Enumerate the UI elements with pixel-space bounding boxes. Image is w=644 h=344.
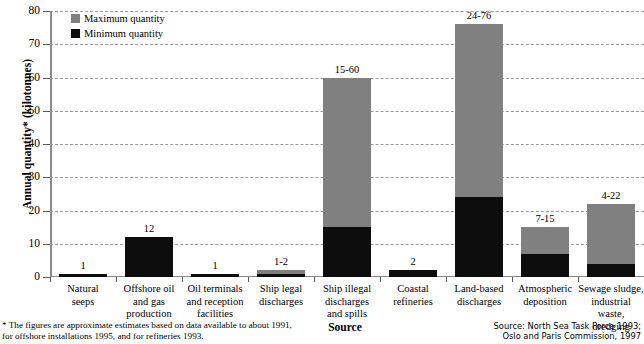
category-label-line: Ship illegal [314, 283, 380, 296]
bar-3[interactable] [257, 270, 305, 277]
y-axis-tick [43, 44, 50, 45]
bar-value-label: 2 [368, 256, 458, 267]
bar-7[interactable] [521, 227, 569, 277]
y-axis-tick [43, 277, 50, 278]
category-label-line: refineries [380, 296, 446, 309]
legend-item-minimum: Minimum quantity [71, 27, 165, 40]
plot-area: 0102030405060708011211-215-60224-767-154… [50, 11, 644, 277]
bar-value-label: 7-15 [500, 213, 590, 224]
category-label-line: discharges [446, 296, 512, 309]
bar-5[interactable] [389, 270, 437, 277]
legend: Maximum quantity Minimum quantity [71, 12, 165, 42]
x-axis-category-label: Atmosphericdeposition [512, 283, 578, 308]
bar-2[interactable] [191, 274, 239, 277]
category-label-line: Sewage sludge, [578, 283, 644, 296]
bar-value-label: 24-76 [434, 10, 524, 21]
category-label-line: Coastal [380, 283, 446, 296]
footnote-line-2: for offshore installations 1995, and for… [2, 331, 332, 342]
legend-label-maximum: Maximum quantity [84, 13, 165, 24]
bar-value-label: 1 [38, 260, 128, 271]
bar-0[interactable] [59, 274, 107, 277]
bar-segment-maximum [455, 24, 503, 197]
bar-segment-maximum [323, 78, 371, 228]
bar-8[interactable] [587, 204, 635, 277]
category-label-line: and gas [116, 296, 182, 309]
footnote-line-1: * The figures are approximate estimates … [2, 320, 332, 331]
x-axis-tick [248, 277, 249, 282]
bar-value-label: 15-60 [302, 64, 392, 75]
bar-segment-minimum [455, 197, 503, 277]
bar-segment-maximum [521, 227, 569, 254]
bar-segment-maximum [587, 204, 635, 264]
category-label-line: Oil terminals [182, 283, 248, 296]
x-axis-title: Source [285, 321, 405, 333]
y-axis-tick [43, 144, 50, 145]
category-label-line: and spills [314, 308, 380, 321]
x-axis-category-label: Naturalseeps [50, 283, 116, 308]
category-label-line: Offshore oil [116, 283, 182, 296]
y-axis-tick [43, 111, 50, 112]
x-axis-tick [512, 277, 513, 282]
category-label-line: deposition [512, 296, 578, 309]
category-label-line: and reception [182, 296, 248, 309]
x-axis-tick [50, 277, 51, 282]
category-label-line: dredging [578, 321, 644, 334]
category-label-line: Natural [50, 283, 116, 296]
category-label-line: Ship legal [248, 283, 314, 296]
bar-4[interactable] [323, 78, 371, 278]
x-axis-tick [380, 277, 381, 282]
x-axis-tick [116, 277, 117, 282]
x-axis-tick [578, 277, 579, 282]
category-label-line: facilities [182, 308, 248, 321]
x-axis-tick [446, 277, 447, 282]
footnote: * The figures are approximate estimates … [2, 320, 332, 341]
y-axis-tick-label: 20 [8, 205, 40, 217]
category-label-line: discharges [314, 296, 380, 309]
bar-segment-minimum [323, 227, 371, 277]
x-axis-tick [182, 277, 183, 282]
x-axis-category-label: Land-baseddischarges [446, 283, 512, 308]
y-axis-tick-label: 40 [8, 138, 40, 150]
y-axis-tick-label: 30 [8, 171, 40, 183]
category-label-line: Land-based [446, 283, 512, 296]
legend-item-maximum: Maximum quantity [71, 12, 165, 25]
y-axis-tick [43, 78, 50, 79]
bar-value-label: 1-2 [236, 256, 326, 267]
bar-segment-minimum [389, 270, 437, 277]
x-axis-category-label: Ship legaldischarges [248, 283, 314, 308]
y-axis-tick-label: 50 [8, 105, 40, 117]
category-label-line: production [116, 308, 182, 321]
bar-segment-minimum [521, 254, 569, 277]
bar-value-label: 4-22 [566, 190, 644, 201]
bar-6[interactable] [455, 24, 503, 277]
y-axis-tick [43, 244, 50, 245]
x-axis-category-label: Offshore oiland gasproduction [116, 283, 182, 321]
x-axis-tick [314, 277, 315, 282]
bar-segment-minimum [125, 237, 173, 277]
y-axis-tick-label: 80 [8, 5, 40, 17]
bar-1[interactable] [125, 237, 173, 277]
y-axis-tick [43, 211, 50, 212]
category-label-line: discharges [248, 296, 314, 309]
y-axis-tick [43, 11, 50, 12]
category-label-line: seeps [50, 296, 116, 309]
legend-swatch-maximum-icon [71, 14, 80, 23]
x-axis-category-label: Ship illegaldischargesand spills [314, 283, 380, 321]
y-axis-tick-label: 10 [8, 238, 40, 250]
category-label-line: industrial waste, [578, 296, 644, 321]
bar-segment-minimum [191, 274, 239, 277]
y-axis-tick-label: 70 [8, 38, 40, 50]
y-axis-tick-label: 0 [8, 271, 40, 283]
y-axis-tick-label: 60 [8, 72, 40, 84]
bar-value-label: 12 [104, 223, 194, 234]
y-axis-tick [43, 177, 50, 178]
bar-segment-minimum [257, 274, 305, 277]
x-axis-category-label: Coastalrefineries [380, 283, 446, 308]
gridline [50, 44, 644, 45]
x-axis-category-label: Oil terminalsand receptionfacilities [182, 283, 248, 321]
chart-root: Annual quantity* (kilotonnes) 0102030405… [0, 0, 644, 344]
legend-label-minimum: Minimum quantity [84, 28, 163, 39]
x-axis-category-label: Sewage sludge,industrial waste,dredging [578, 283, 644, 333]
bar-segment-minimum [59, 274, 107, 277]
bar-segment-minimum [587, 264, 635, 277]
